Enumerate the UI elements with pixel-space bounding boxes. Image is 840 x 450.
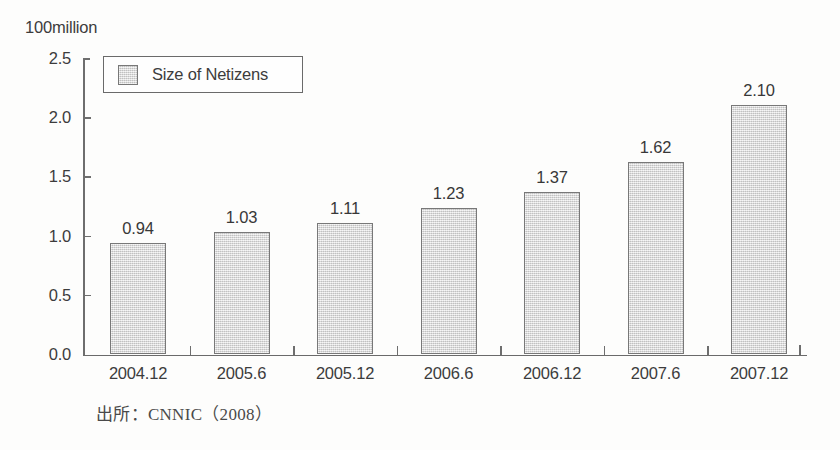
- bar-slot: 1.37: [524, 162, 580, 354]
- x-axis-tick-mark: [397, 346, 399, 355]
- y-axis-line: [83, 58, 85, 356]
- x-axis-tick-mark: [293, 346, 295, 355]
- y-axis-tick-label: 2.5: [49, 49, 71, 68]
- bar-value-label: 2.10: [743, 81, 774, 100]
- bar-slot: 1.03: [214, 202, 270, 354]
- bar-value-label: 1.11: [330, 199, 360, 218]
- y-axis-tick-label: 1.5: [49, 167, 71, 186]
- bar[interactable]: [317, 223, 373, 355]
- source-caption: 出所：CNNIC（2008）: [96, 400, 272, 425]
- bar-value-label: 0.94: [122, 219, 153, 238]
- x-axis-tick-label: 2005.6: [217, 364, 266, 383]
- legend-series-label: Size of Netizens: [152, 65, 268, 84]
- y-axis-tick-label: 2.0: [49, 108, 71, 127]
- x-axis-tick-label: 2007.12: [730, 364, 788, 383]
- y-axis-tick-mark: [83, 117, 91, 119]
- chart-legend: Size of Netizens: [103, 56, 303, 93]
- x-axis-tick-mark: [500, 346, 502, 355]
- x-axis-tick-label: 2006.6: [424, 364, 473, 383]
- bar-value-label: 1.37: [536, 168, 567, 187]
- y-axis-label-group: 0.00.51.01.52.02.5: [0, 58, 83, 356]
- bar-slot: 1.62: [628, 132, 684, 354]
- bar[interactable]: [214, 232, 270, 354]
- y-axis-tick-label: 1.0: [49, 226, 71, 245]
- y-axis-tick-mark: [83, 295, 91, 297]
- bar[interactable]: [421, 208, 477, 354]
- bar-slot: 1.23: [421, 178, 477, 354]
- y-axis-unit-label: 100million: [25, 18, 97, 37]
- bar-slot: 2.10: [731, 75, 787, 354]
- bar-value-label: 1.62: [640, 138, 671, 157]
- x-axis-tick-mark: [604, 346, 606, 355]
- bar-slot: 1.11: [317, 193, 373, 355]
- plot-area: 0.941.031.111.231.371.622.10: [83, 58, 807, 356]
- x-axis-line: [83, 355, 807, 357]
- x-axis-label-group: 2004.122005.62005.122006.62006.122007.62…: [83, 364, 807, 390]
- x-axis-right-cap: [799, 345, 801, 355]
- x-axis-tick-label: 2007.6: [631, 364, 680, 383]
- y-axis-tick-mark: [83, 176, 91, 178]
- bar-value-label: 1.23: [433, 184, 464, 203]
- x-axis-tick-label: 2006.12: [523, 364, 581, 383]
- legend-swatch-icon: [118, 65, 138, 85]
- x-axis-tick-label: 2004.12: [109, 364, 167, 383]
- bar[interactable]: [731, 105, 787, 354]
- y-axis-top-cap: [83, 58, 90, 60]
- bar-chart-figure: 100million 0.00.51.01.52.02.5 0.941.031.…: [0, 0, 840, 450]
- bar[interactable]: [110, 243, 166, 354]
- x-axis-tick-mark: [190, 346, 192, 355]
- bar-slot: 0.94: [110, 213, 166, 354]
- bar[interactable]: [524, 192, 580, 354]
- bar-value-label: 1.03: [226, 208, 257, 227]
- y-axis-tick-mark: [83, 236, 91, 238]
- bar[interactable]: [628, 162, 684, 354]
- y-axis-tick-label: 0.0: [49, 345, 71, 364]
- y-axis-tick-label: 0.5: [49, 285, 71, 304]
- x-axis-tick-label: 2005.12: [316, 364, 374, 383]
- x-axis-tick-mark: [707, 346, 709, 355]
